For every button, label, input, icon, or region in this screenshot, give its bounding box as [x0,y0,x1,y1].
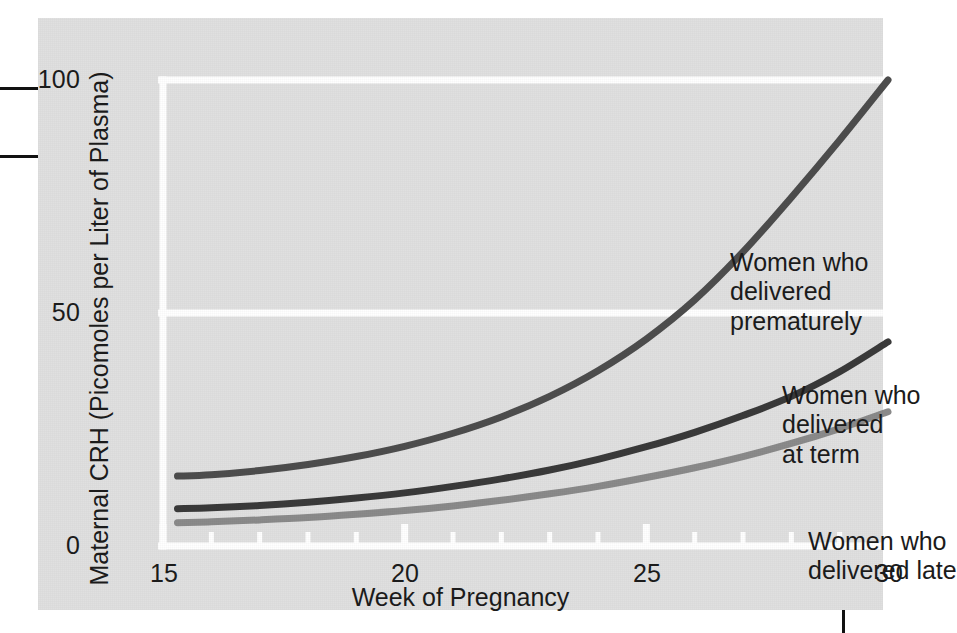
y-axis-tick-label-100: 100 [38,65,80,94]
series-annotation-at-term: Women who delivered at term [782,381,921,469]
series-annotation-premature: Women who delivered prematurely [730,248,869,336]
series-annotation-late: Women who delivered late [808,527,957,586]
plot-area: Women who delivered prematurely Women wh… [163,80,888,546]
y-axis-tick-label-0: 0 [66,531,80,560]
x-axis-title: Week of Pregnancy [0,583,921,612]
figure-panel: 100 50 0 15 20 25 30 Maternal CRH (Picom… [38,18,883,610]
y-axis-title: Maternal CRH (Picomoles per Liter of Pla… [85,69,114,589]
y-axis-tick-label-50: 50 [52,298,80,327]
